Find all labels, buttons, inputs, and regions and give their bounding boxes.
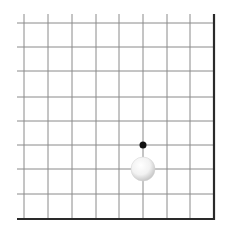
board-edges	[17, 14, 215, 220]
last-move-marker-icon	[140, 142, 147, 149]
go-board[interactable]	[0, 0, 226, 237]
stones-layer	[131, 157, 155, 181]
markers-layer	[140, 142, 147, 149]
board-grid	[17, 14, 214, 219]
white-stone[interactable]	[131, 157, 155, 181]
